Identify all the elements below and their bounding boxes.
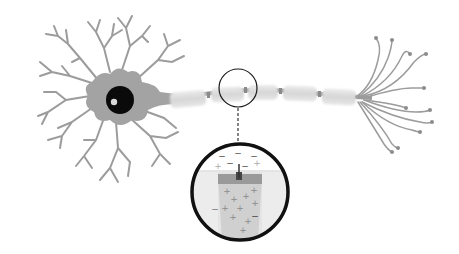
svg-text:+: +: [214, 161, 222, 171]
neuron-diagram: − − − + − − + + + + + + + + − + + − +: [0, 0, 459, 254]
svg-text:−: −: [226, 158, 234, 168]
svg-text:+: +: [251, 198, 259, 208]
svg-text:−: −: [211, 204, 219, 214]
nucleus: [106, 86, 134, 114]
svg-text:−: −: [218, 151, 226, 161]
svg-text:−: −: [234, 148, 242, 158]
svg-text:+: +: [221, 203, 229, 213]
svg-text:+: +: [236, 203, 244, 213]
magnified-view: − − − + − − + + + + + + + + − + + − +: [190, 140, 290, 244]
svg-text:−: −: [241, 161, 249, 171]
neuron-illustration: − − − + − − + + + + + + + + − + + − +: [0, 0, 459, 254]
svg-text:+: +: [250, 185, 258, 195]
svg-text:+: +: [239, 225, 247, 235]
svg-text:+: +: [253, 158, 261, 168]
axon: [169, 85, 372, 109]
myelin-sheath: [169, 85, 356, 109]
svg-text:+: +: [229, 212, 237, 222]
svg-text:+: +: [242, 191, 250, 201]
axon-terminals: [356, 38, 432, 152]
svg-text:−: −: [251, 211, 259, 221]
